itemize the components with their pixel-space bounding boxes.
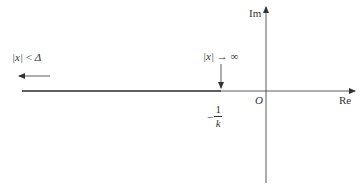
- infinity-symbol: ∞: [230, 50, 238, 62]
- critical-point-label: − 1 k: [207, 104, 222, 129]
- numerator: 1: [214, 104, 222, 115]
- less-than: <: [26, 51, 32, 63]
- denominator: k: [215, 118, 222, 129]
- delta-symbol: Δ: [35, 51, 41, 63]
- abs-x: |x|: [12, 51, 23, 63]
- minus-sign: −: [207, 111, 213, 123]
- complex-plane-canvas: [0, 0, 363, 191]
- imag-axis-label: Im: [249, 8, 261, 19]
- abs-x: |x|: [203, 50, 214, 62]
- point-condition-label: |x| → ∞: [203, 51, 238, 62]
- real-axis-label: Re: [339, 95, 351, 106]
- fraction: 1 k: [214, 104, 222, 129]
- origin-label: O: [255, 95, 263, 106]
- left-condition-label: |x| < Δ: [12, 52, 41, 63]
- arrow-symbol: →: [217, 50, 228, 62]
